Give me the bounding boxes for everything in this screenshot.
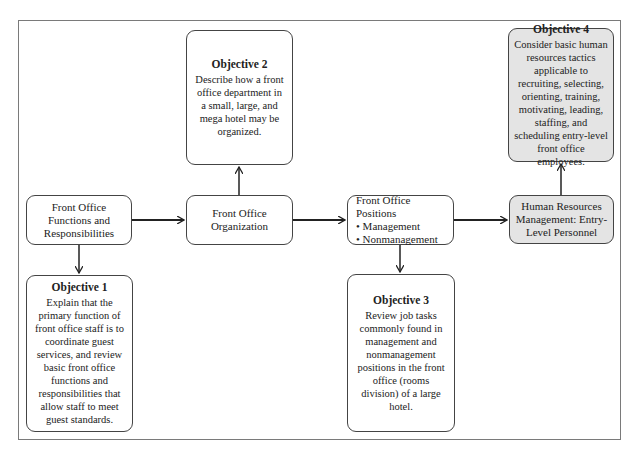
node-hr-management: Human Resources Management: Entry-Level …	[509, 195, 614, 244]
objective-2-box: Objective 2 Describe how a front office …	[186, 30, 293, 165]
bullet-item: • Nonmanagement	[356, 233, 438, 246]
node-positions: Front Office Positions • Management • No…	[347, 195, 454, 245]
objective-1-box: Objective 1 Explain that the primary fun…	[26, 275, 133, 432]
objective-3-box: Objective 3 Review job tasks commonly fo…	[347, 274, 455, 432]
bullet-item: • Management	[356, 220, 420, 233]
objective-text: Describe how a front office department i…	[195, 73, 284, 138]
objective-title: Objective 4	[533, 23, 589, 36]
node-organization: Front Office Organization	[186, 195, 293, 245]
objective-text: Consider basic human resources tactics a…	[513, 38, 609, 168]
objective-title: Objective 1	[52, 281, 108, 294]
node-label: Front Office Organization	[209, 207, 270, 233]
objective-text: Explain that the primary function of fro…	[34, 296, 125, 426]
objective-title: Objective 3	[373, 294, 429, 307]
node-functions-responsibilities: Front Office Functions and Responsibilit…	[26, 195, 132, 245]
node-label: Front Office Functions and Responsibilit…	[31, 201, 127, 240]
node-label: Human Resources Management: Entry-Level …	[514, 200, 609, 239]
node-label: Front Office Positions	[356, 194, 449, 220]
objective-title: Objective 2	[212, 58, 268, 71]
objective-4-box: Objective 4 Consider basic human resourc…	[508, 28, 614, 162]
objective-text: Review job tasks commonly found in manag…	[355, 309, 447, 413]
